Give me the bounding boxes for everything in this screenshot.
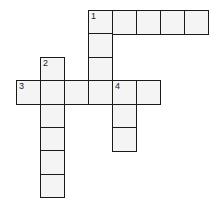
- crossword-cell[interactable]: [112, 10, 137, 35]
- crossword-grid: 1234: [0, 0, 215, 199]
- crossword-cell[interactable]: [40, 104, 65, 129]
- crossword-cell[interactable]: [40, 150, 65, 175]
- clue-number: 2: [43, 58, 48, 68]
- crossword-cell[interactable]: [40, 174, 65, 199]
- clue-number: 4: [115, 81, 120, 91]
- crossword-cell[interactable]: [88, 33, 113, 58]
- crossword-cell[interactable]: 2: [40, 57, 65, 82]
- crossword-cell[interactable]: [184, 10, 209, 35]
- crossword-cell[interactable]: [64, 80, 89, 105]
- crossword-cell[interactable]: 3: [16, 80, 41, 105]
- crossword-cell[interactable]: [40, 127, 65, 152]
- crossword-cell[interactable]: [112, 104, 137, 129]
- crossword-cell[interactable]: [136, 10, 161, 35]
- crossword-cell[interactable]: [88, 57, 113, 82]
- crossword-cell[interactable]: [88, 80, 113, 105]
- crossword-cell[interactable]: 4: [112, 80, 137, 105]
- clue-number: 1: [91, 11, 96, 21]
- clue-number: 3: [19, 81, 24, 91]
- crossword-cell[interactable]: [136, 80, 161, 105]
- crossword-cell[interactable]: [112, 127, 137, 152]
- crossword-cell[interactable]: [160, 10, 185, 35]
- crossword-cell[interactable]: 1: [88, 10, 113, 35]
- crossword-cell[interactable]: [40, 80, 65, 105]
